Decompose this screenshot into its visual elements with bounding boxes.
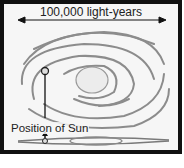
sun-marker: [42, 68, 49, 75]
sun-position-label: Position of Sun: [10, 122, 89, 134]
scale-arrow: [18, 17, 166, 23]
sun-marker-edge: [43, 139, 48, 144]
diagram-frame: 100,000 light-years: [0, 0, 182, 154]
galactic-bulge: [76, 67, 108, 93]
edge-on-disk: [18, 137, 169, 145]
